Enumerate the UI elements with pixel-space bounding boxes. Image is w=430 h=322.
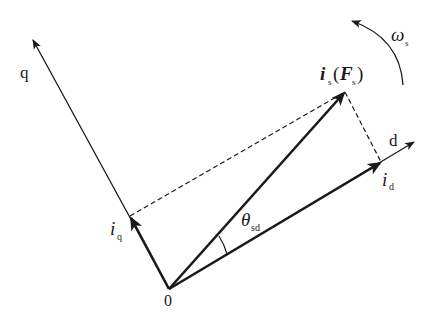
rotation-label: ω s <box>391 24 409 48</box>
svg-text:(: ( <box>333 63 339 85</box>
dq-vector-diagram: q d 0 i s ( F s ) i d i q θ sd ω s <box>0 0 430 322</box>
q-axis-label: q <box>20 63 29 82</box>
id-vector-label: i d <box>382 169 394 192</box>
svg-text:sd: sd <box>251 222 260 233</box>
svg-text:θ: θ <box>241 209 250 230</box>
svg-text:): ) <box>357 63 363 85</box>
projection-line-q <box>130 92 345 216</box>
svg-text:i: i <box>110 218 115 239</box>
origin-label: 0 <box>164 292 172 309</box>
is-vector-label: i s ( F s ) <box>320 63 363 87</box>
angle-arc <box>219 236 227 254</box>
id-vector <box>169 163 380 289</box>
projection-line-d <box>345 92 381 162</box>
svg-text:s: s <box>352 77 356 87</box>
svg-text:i: i <box>320 63 326 84</box>
svg-text:ω: ω <box>391 24 404 45</box>
angle-label: θ sd <box>241 209 260 233</box>
d-axis-label: d <box>389 131 398 150</box>
svg-text:d: d <box>389 181 394 192</box>
iq-vector-label: i q <box>110 218 122 242</box>
svg-text:s: s <box>328 77 332 87</box>
svg-text:i: i <box>382 169 387 190</box>
is-vector <box>169 93 344 289</box>
iq-vector <box>131 218 169 289</box>
svg-text:q: q <box>117 231 122 242</box>
svg-text:s: s <box>405 38 409 48</box>
svg-text:F: F <box>339 63 353 84</box>
